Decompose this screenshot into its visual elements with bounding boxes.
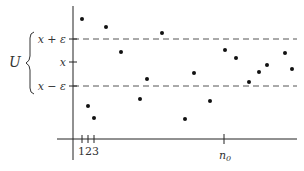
label-n0: n0 [219,149,231,163]
brace-icon [26,32,34,94]
sequence-points [80,17,294,121]
label-lower: x − ε [38,80,66,93]
label-set-U: U [9,54,22,70]
label-upper: x + ε [38,33,66,46]
label-ticks-123: 123 [78,145,99,158]
convergence-diagram: x + ε x x − ε U 123 n0 [0,0,304,171]
label-center: x [60,56,67,69]
